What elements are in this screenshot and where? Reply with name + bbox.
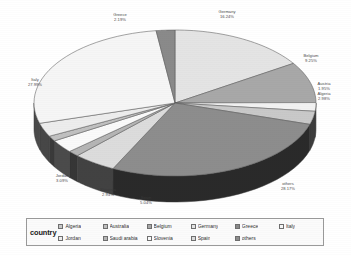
legend-item-algeria[interactable]: Algeria (58, 220, 102, 232)
legend-item-germany[interactable]: Germany (191, 220, 235, 232)
pie-label-others: others28.17% (268, 182, 308, 191)
pie-label-belgium: Belgium9.25% (291, 54, 331, 63)
pie-chart-figure: Germany16.24%Belgium9.25%Austria1.95%Alg… (0, 0, 351, 255)
legend-title: country (30, 228, 58, 237)
pie-label-slovenia: Slovenia2.94% (88, 188, 128, 197)
legend-swatch-icon (103, 236, 108, 241)
legend-swatch-icon (235, 236, 240, 241)
pie-top-slices (34, 30, 316, 176)
legend-item-label: Australia (110, 223, 129, 229)
legend-item-saudi-arabia[interactable]: Saudi arabia (103, 232, 147, 244)
pie-label-spain: Spain5.04% (126, 196, 166, 205)
legend-swatch-icon (147, 236, 152, 241)
legend-item-label: Germany (198, 223, 219, 229)
legend-item-label: others (242, 235, 256, 241)
pie-label-percent: 27.99% (15, 83, 55, 88)
pie-label-percent: 3.09% (42, 179, 82, 184)
pie-label-percent: 2.98% (304, 97, 344, 102)
legend: country AlgeriaAustraliaBelgiumGermanyGr… (26, 218, 324, 246)
legend-swatch-icon (191, 224, 196, 229)
legend-item-italy[interactable]: Italy (279, 220, 323, 232)
legend-item-others[interactable]: others (235, 232, 279, 244)
legend-swatch-icon (58, 224, 63, 229)
legend-items: AlgeriaAustraliaBelgiumGermanyGreeceItal… (58, 220, 323, 244)
legend-item-jordan[interactable]: Jordan (58, 232, 102, 244)
legend-item-label: Belgium (154, 223, 172, 229)
pie-label-percent: 9.25% (291, 59, 331, 64)
pie-label-percent: 16.24% (207, 15, 247, 20)
pie-label-percent: 5.04% (126, 201, 166, 206)
pie-label-jordan: Jordan3.09% (42, 174, 82, 183)
legend-item-australia[interactable]: Australia (103, 220, 147, 232)
legend-swatch-icon (235, 224, 240, 229)
pie-label-germany: Germany16.24% (207, 10, 247, 19)
legend-swatch-icon (58, 236, 63, 241)
legend-item-label: Greece (242, 223, 258, 229)
pie-label-algeria: Algeria2.98% (304, 92, 344, 101)
legend-swatch-icon (279, 224, 284, 229)
legend-item-label: Algeria (65, 223, 81, 229)
pie-label-greece: Greece2.19% (100, 13, 140, 22)
pie-label-percent: 28.17% (268, 187, 308, 192)
legend-item-belgium[interactable]: Belgium (147, 220, 191, 232)
legend-item-label: Jordan (65, 235, 80, 241)
legend-item-label: Saudi arabia (110, 235, 138, 241)
legend-item-slovenia[interactable]: Slovenia (147, 232, 191, 244)
pie-slice-wall (49, 136, 54, 167)
legend-item-label: Slovenia (154, 235, 173, 241)
legend-item-label: Spain (198, 235, 211, 241)
legend-item-label: Italy (286, 223, 295, 229)
pie-label-percent: 2.94% (88, 193, 128, 198)
legend-swatch-icon (147, 224, 152, 229)
pie-label-italy: Italy27.99% (15, 78, 55, 87)
legend-item-greece[interactable]: Greece (235, 220, 279, 232)
legend-swatch-icon (191, 236, 196, 241)
pie-plot-area: Germany16.24%Belgium9.25%Austria1.95%Alg… (0, 0, 351, 212)
legend-swatch-icon (103, 224, 108, 229)
pie-label-percent: 2.19% (100, 18, 140, 23)
legend-item-spain[interactable]: Spain (191, 232, 235, 244)
pie-label-austria: Austria1.95% (304, 82, 344, 91)
